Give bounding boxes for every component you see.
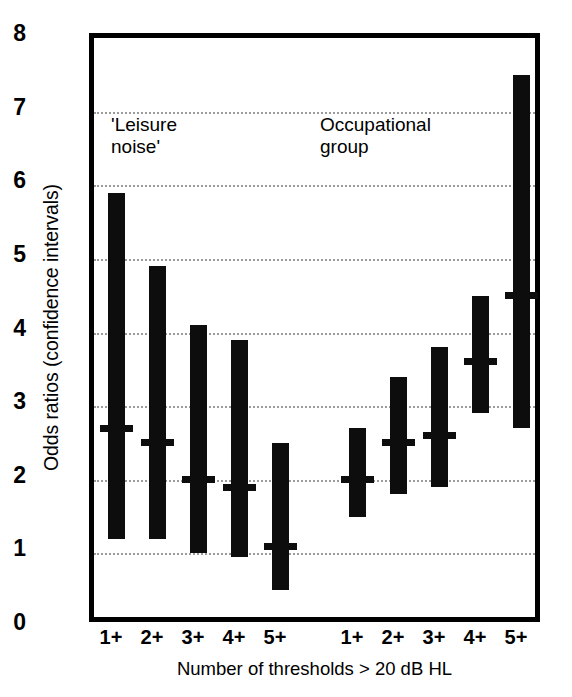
- ci-estimate-marker-leisure-2+: [141, 439, 174, 446]
- plot-inner: 'Leisure noise' Occupational group: [94, 38, 535, 617]
- ci-bar-occupational-5+: [513, 75, 530, 428]
- ci-bar-leisure-3+: [190, 325, 207, 553]
- ci-estimate-marker-occupational-4+: [464, 358, 497, 365]
- ci-estimate-marker-occupational-3+: [423, 432, 456, 439]
- ci-bar-leisure-2+: [149, 266, 166, 538]
- ci-estimate-marker-leisure-1+: [100, 425, 133, 432]
- gridline-6: [94, 185, 535, 187]
- annotation-leisure-noise: 'Leisure noise': [111, 114, 177, 158]
- x-tick-leisure-4+: 4+: [211, 626, 257, 649]
- ci-estimate-marker-leisure-4+: [223, 484, 256, 491]
- x-tick-occupational-5+: 5+: [493, 626, 539, 649]
- x-tick-leisure-1+: 1+: [88, 626, 134, 649]
- y-tick-0: 0: [0, 609, 26, 636]
- chart-figure: Odds ratios (confidence intervals) 01234…: [0, 0, 572, 697]
- x-tick-occupational-4+: 4+: [452, 626, 498, 649]
- y-tick-8: 8: [0, 20, 26, 47]
- plot-area: 'Leisure noise' Occupational group: [89, 33, 540, 622]
- ci-bar-occupational-3+: [431, 347, 448, 487]
- ci-estimate-marker-leisure-3+: [182, 476, 215, 483]
- x-tick-leisure-5+: 5+: [252, 626, 298, 649]
- y-tick-7: 7: [0, 93, 26, 120]
- gridline-1: [94, 553, 535, 555]
- ci-estimate-marker-occupational-5+: [505, 292, 538, 299]
- ci-bar-occupational-4+: [472, 296, 489, 414]
- x-tick-occupational-3+: 3+: [411, 626, 457, 649]
- x-axis-title: Number of thresholds > 20 dB HL: [89, 658, 540, 680]
- y-tick-3: 3: [0, 388, 26, 415]
- gridline-5: [94, 259, 535, 261]
- ci-bar-occupational-1+: [349, 428, 366, 516]
- y-tick-2: 2: [0, 461, 26, 488]
- annotation-occupational-group: Occupational group: [320, 114, 431, 158]
- ci-bar-leisure-1+: [108, 193, 125, 539]
- x-tick-leisure-3+: 3+: [170, 626, 216, 649]
- x-tick-leisure-2+: 2+: [129, 626, 175, 649]
- x-tick-occupational-2+: 2+: [370, 626, 416, 649]
- ci-bar-leisure-4+: [231, 340, 248, 557]
- y-tick-1: 1: [0, 535, 26, 562]
- ci-estimate-marker-leisure-5+: [264, 543, 297, 550]
- y-axis-title: Odds ratios (confidence intervals): [34, 33, 68, 622]
- ci-bar-leisure-5+: [272, 443, 289, 590]
- ci-estimate-marker-occupational-1+: [341, 476, 374, 483]
- x-tick-occupational-1+: 1+: [329, 626, 375, 649]
- y-tick-5: 5: [0, 240, 26, 267]
- y-tick-4: 4: [0, 314, 26, 341]
- ci-bar-occupational-2+: [390, 377, 407, 495]
- ci-estimate-marker-occupational-2+: [382, 439, 415, 446]
- y-tick-6: 6: [0, 167, 26, 194]
